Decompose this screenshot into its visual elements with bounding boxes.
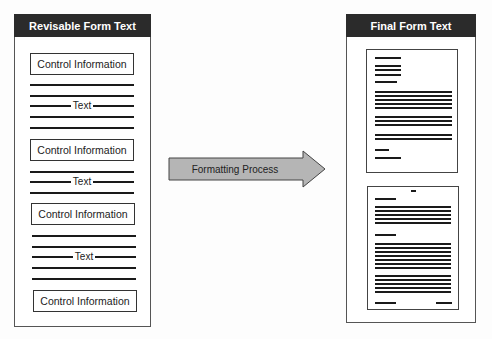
formatted-page-2 [367, 186, 459, 310]
text-label-line: Text [30, 101, 134, 111]
page-line [375, 149, 389, 151]
page-line [375, 279, 451, 281]
text-line [32, 278, 136, 280]
page-line [375, 103, 452, 105]
page-line [375, 247, 451, 249]
text-label-line: Text [32, 252, 136, 262]
text-line [32, 235, 136, 237]
page-line [436, 302, 452, 304]
text-line [30, 127, 134, 129]
page-line [375, 65, 401, 67]
text-label: Text [71, 101, 93, 111]
text-label-line: Text [30, 177, 134, 187]
page-line [375, 222, 451, 224]
page-line [375, 243, 451, 245]
page-line [375, 283, 451, 285]
page-line [375, 198, 396, 200]
page-line [375, 95, 452, 97]
page-line [375, 120, 452, 122]
page-line [375, 259, 451, 261]
page-line [375, 275, 451, 277]
page-line [375, 107, 452, 109]
final-form-title: Final Form Text [346, 14, 476, 37]
page-line [375, 287, 451, 289]
page-line [375, 291, 451, 293]
page-line [375, 157, 401, 159]
page-line [375, 57, 401, 59]
control-information-box: Control Information [30, 139, 134, 161]
text-line [32, 267, 136, 269]
final-form-panel: Final Form Text [346, 14, 476, 323]
page-line [375, 263, 451, 265]
control-information-box: Control Information [33, 290, 137, 312]
page-line [375, 234, 396, 236]
control-information-box: Control Information [31, 203, 135, 225]
text-line [30, 116, 134, 118]
page-line [375, 69, 401, 71]
page-line [375, 218, 451, 220]
text-line [30, 84, 134, 86]
page-line [375, 81, 397, 83]
page-line [375, 214, 451, 216]
formatting-process-label: Formatting Process [170, 150, 300, 188]
text-label: Text [71, 177, 93, 187]
text-line [30, 171, 134, 173]
page-line [375, 251, 451, 253]
text-label: Text [73, 252, 95, 262]
text-line [32, 246, 136, 248]
page-line [375, 206, 451, 208]
page-line [375, 134, 452, 136]
text-line [30, 95, 134, 97]
control-information-box: Control Information [30, 53, 134, 75]
page-line [375, 302, 396, 304]
page-line [375, 138, 452, 140]
text-line [30, 192, 134, 194]
revisable-form-title: Revisable Form Text [14, 14, 151, 37]
revisable-form-panel: Revisable Form Text Control Information … [14, 14, 151, 327]
page-line [375, 74, 401, 76]
page-line [375, 124, 452, 126]
page-line [375, 255, 451, 257]
page-line [375, 116, 452, 118]
page-line [375, 91, 452, 93]
formatted-page-1 [366, 49, 458, 173]
page-line [375, 210, 451, 212]
page-number-mark [411, 190, 416, 192]
page-line [375, 267, 451, 269]
page-line [375, 99, 452, 101]
